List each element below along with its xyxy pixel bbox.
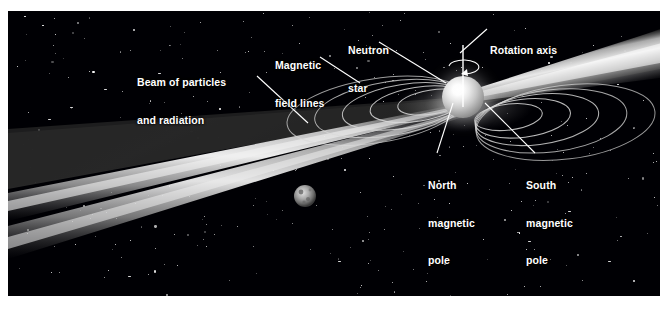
leader-rotation-axis [460,29,487,53]
label-beam-line1: Beam of particles [137,76,226,89]
label-north-pole-line1: North [428,179,475,192]
label-south-pole-line1: South [526,179,573,192]
label-south-pole-line3: pole [526,254,573,267]
leader-neutron-star [379,42,446,83]
leader-north-pole [437,103,453,153]
pulsar-diagram-figure: Magnetic field lines Neutron star Rotati… [0,0,667,317]
label-rotation-axis: Rotation axis [490,19,557,82]
label-north-magnetic-pole: North magnetic pole [428,154,475,292]
label-magnetic-field-lines-line1: Magnetic [275,59,325,72]
label-beam: Beam of particles and radiation [137,51,226,151]
space-scene: Magnetic field lines Neutron star Rotati… [8,11,660,296]
label-beam-line2: and radiation [137,114,226,127]
leader-south-pole [485,103,535,153]
label-north-pole-line2: magnetic [428,217,475,230]
label-magnetic-field-lines: Magnetic field lines [275,34,325,134]
label-south-magnetic-pole: South magnetic pole [526,154,573,292]
label-neutron-star-line1: Neutron [348,44,389,57]
label-magnetic-field-lines-line2: field lines [275,97,325,110]
label-neutron-star: Neutron star [348,19,389,119]
label-south-pole-line2: magnetic [526,217,573,230]
label-rotation-axis-line1: Rotation axis [490,44,557,57]
label-north-pole-line3: pole [428,254,475,267]
label-neutron-star-line2: star [348,82,389,95]
